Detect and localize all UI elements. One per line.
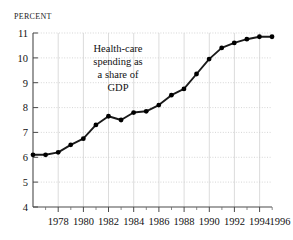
data-point-1978 [43, 152, 48, 157]
xtick-label-1990: 1990 [199, 216, 220, 227]
data-point-1984 [119, 118, 124, 123]
series-markers [31, 34, 275, 157]
data-point-1988 [169, 93, 174, 98]
data-point-1991 [207, 57, 212, 62]
xtick-label-1980: 1980 [73, 216, 94, 227]
xtick-label-1978: 1978 [48, 216, 69, 227]
xtick-label-1994: 1994 [249, 216, 271, 227]
annotation-line-1: Health-care [94, 43, 143, 54]
ytick-label-6: 6 [23, 152, 28, 163]
data-point-1980 [68, 142, 73, 147]
ytick-label-10: 10 [18, 53, 29, 64]
ytick-label-7: 7 [23, 127, 28, 138]
xtick-label-1988: 1988 [174, 216, 195, 227]
chart-figure: Percent [0, 0, 293, 240]
xtick-label-1982: 1982 [98, 216, 119, 227]
ytick-label-8: 8 [23, 102, 28, 113]
ytick-label-4: 4 [23, 202, 29, 213]
data-point-1985 [131, 110, 136, 115]
ytick-label-9: 9 [23, 78, 28, 89]
annotation-line-2: spending as [93, 56, 142, 67]
data-point-1994 [244, 37, 249, 42]
data-point-1995 [257, 34, 262, 39]
x-axis-tick-labels: 1978 1980 1982 1984 1986 1988 1990 1992 … [48, 216, 291, 227]
data-point-1979 [56, 150, 61, 155]
data-point-1990 [194, 72, 199, 77]
data-point-1983 [106, 114, 111, 119]
xtick-label-1992: 1992 [224, 216, 245, 227]
annotation-line-3: a share of [98, 69, 139, 80]
health-care-spending-line-chart: 11 10 9 8 7 6 5 4 1978 1980 1982 1984 19… [0, 0, 293, 240]
data-point-1993 [232, 41, 237, 46]
x-axis-major-ticks [58, 207, 259, 212]
data-point-1977 [31, 152, 36, 157]
ytick-label-5: 5 [23, 177, 28, 188]
ytick-label-11: 11 [18, 28, 28, 39]
series-line-health-care-spending [33, 37, 272, 155]
data-point-1982 [93, 123, 98, 128]
data-point-1987 [156, 103, 161, 108]
chart-annotation: Health-care spending as a share of GDP [93, 43, 142, 93]
data-point-1996 [270, 34, 275, 39]
xtick-label-1984: 1984 [123, 216, 145, 227]
vertical-gridlines [58, 33, 259, 207]
annotation-line-4: GDP [107, 82, 128, 93]
data-point-1986 [144, 109, 149, 114]
xtick-label-1986: 1986 [148, 216, 169, 227]
y-axis-ticks [33, 33, 38, 207]
data-point-1989 [182, 87, 187, 92]
y-axis-tick-labels: 11 10 9 8 7 6 5 4 [18, 28, 29, 213]
data-point-1992 [219, 46, 224, 51]
xtick-label-1996: 1996 [270, 216, 291, 227]
data-point-1981 [81, 136, 86, 141]
